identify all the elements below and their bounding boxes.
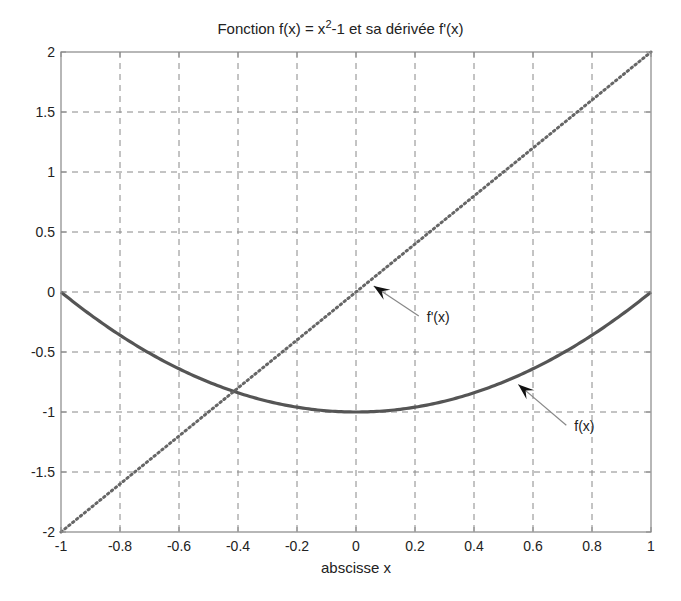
annotation-label: f(x) bbox=[574, 418, 594, 434]
plot-area: -1-0.8-0.6-0.4-0.200.20.40.60.81 -2-1.5-… bbox=[0, 0, 681, 601]
y-tick-label: -1 bbox=[43, 404, 56, 420]
x-tick-label: -0.8 bbox=[108, 538, 132, 554]
x-tick-label: -0.2 bbox=[285, 538, 309, 554]
x-tick-label: -1 bbox=[55, 538, 68, 554]
y-tick-label: 1.5 bbox=[36, 104, 56, 120]
y-tick-label: 2 bbox=[47, 44, 55, 60]
y-tick-label: -2 bbox=[43, 524, 56, 540]
x-tick-label: 0.6 bbox=[523, 538, 543, 554]
x-axis-ticks: -1-0.8-0.6-0.4-0.200.20.40.60.81 bbox=[55, 52, 655, 554]
x-tick-label: 0 bbox=[352, 538, 360, 554]
arrowhead-icon bbox=[374, 286, 391, 300]
x-tick-label: 0.4 bbox=[464, 538, 484, 554]
x-tick-label: -0.6 bbox=[167, 538, 191, 554]
x-tick-label: 0.2 bbox=[405, 538, 425, 554]
y-tick-label: 0 bbox=[47, 284, 55, 300]
x-tick-label: 0.8 bbox=[582, 538, 602, 554]
annotation-label: f'(x) bbox=[427, 309, 450, 325]
x-tick-label: -0.4 bbox=[226, 538, 250, 554]
x-axis-label: abscisse x bbox=[321, 559, 392, 576]
y-tick-label: 0.5 bbox=[36, 224, 56, 240]
y-tick-label: 1 bbox=[47, 164, 55, 180]
y-tick-label: -1.5 bbox=[31, 464, 55, 480]
x-tick-label: 1 bbox=[647, 538, 655, 554]
y-tick-label: -0.5 bbox=[31, 344, 55, 360]
